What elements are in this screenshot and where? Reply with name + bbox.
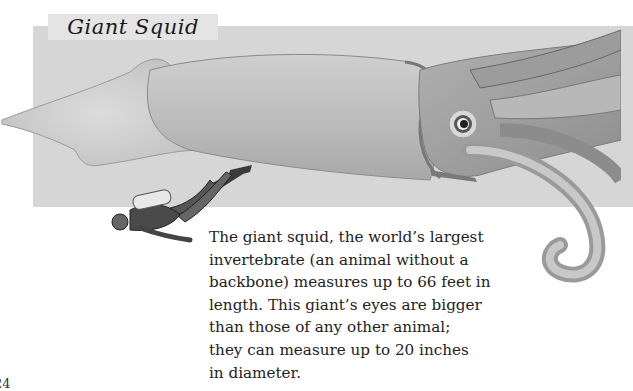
body-line: The giant squid, the world’s largest xyxy=(209,226,499,249)
title-banner: Giant Squid xyxy=(48,14,218,40)
body-line: they can measure up to 20 inches xyxy=(209,339,499,362)
body-line: backbone) measures up to 66 feet in xyxy=(209,271,499,294)
body-line: in diameter. xyxy=(209,362,499,385)
body-line: than those of any other animal; xyxy=(209,316,499,339)
page-title: Giant Squid xyxy=(67,15,199,39)
page-number: 24 xyxy=(0,376,11,391)
article-body: The giant squid, the world’s largest inv… xyxy=(209,226,499,384)
body-line: length. This giant’s eyes are bigger xyxy=(209,294,499,317)
body-line: invertebrate (an animal without a xyxy=(209,249,499,272)
